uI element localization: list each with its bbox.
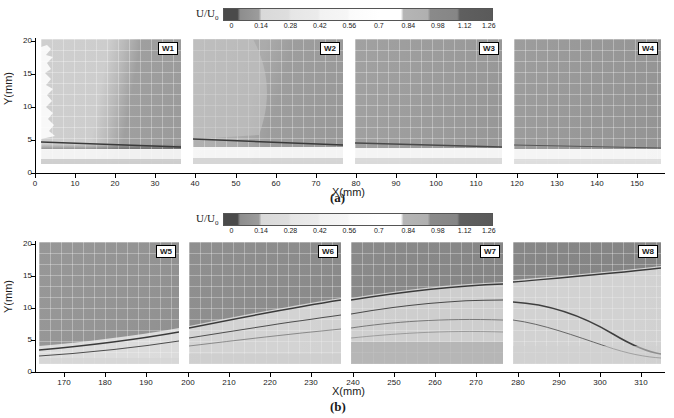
xtick: 210 [222,378,235,387]
xtick: 170 [57,378,70,387]
xtick: 270 [469,378,482,387]
w8-label: W8 [638,245,658,258]
xtick: 150 [630,179,643,188]
w8-grid [513,242,661,364]
window-w6: W6 [189,242,341,364]
xtickmark [236,174,237,178]
ytickmark [31,372,36,373]
cbar-tick: 0.98 [431,227,445,234]
w3-grid [355,39,502,164]
cbar-tick: 1.12 [458,22,472,29]
xtick: 30 [151,179,160,188]
window-w3: W3 [355,39,502,164]
cbar-tick: 1.12 [458,227,472,234]
xtick: 180 [98,378,111,387]
w4-label: W4 [638,42,658,55]
panel-b-xlabel: X(mm) [332,385,365,397]
xtick: 60 [272,179,281,188]
xtickmark [188,373,189,377]
w5-grid [39,242,179,364]
cbar-tick: 0.42 [313,227,327,234]
xtick: 130 [550,179,563,188]
xtick: 120 [510,179,523,188]
xtickmark [557,174,558,178]
colorbar-a: U/U0 0 0.14 0.28 0.42 0.56 0.7 0.84 0.98… [196,8,493,32]
xtick: 300 [593,378,606,387]
xtickmark [597,174,598,178]
panel-b-caption: (b) [330,399,346,415]
w4-grid [514,39,661,164]
panel-b-yaxis [35,241,36,372]
xtick: 200 [181,378,194,387]
ytickmark [31,308,36,309]
ytick: 15 [14,271,32,280]
w2-label: W2 [320,42,340,55]
xtickmark [518,373,519,377]
cbar-tick: 0.7 [374,22,384,29]
xtick: 100 [429,179,442,188]
window-w5: W5 [39,242,179,364]
xtickmark [316,174,317,178]
xtick: 70 [312,179,321,188]
xtickmark [229,373,230,377]
ytick: 5 [14,135,32,144]
xtick: 260 [428,378,441,387]
w1-grid [41,39,181,164]
xtick: 50 [232,179,241,188]
xtickmark [64,373,65,377]
xtickmark [600,373,601,377]
ytick: 10 [14,303,32,312]
cbar-tick: 0 [230,227,234,234]
cbar-tick: 0.98 [431,22,445,29]
ytick: 15 [14,69,32,78]
ytickmark [31,244,36,245]
cbar-tick: 0.56 [343,22,357,29]
colorbar-title-b: U/U0 [196,213,218,229]
ytickmark [31,74,36,75]
cbar-tick: 0.56 [343,227,357,234]
xtickmark [559,373,560,377]
panel-b-plot: W5 W6 [35,241,665,372]
xtickmark [270,373,271,377]
xtick: 10 [71,179,80,188]
ytickmark [31,140,36,141]
panel-b-ylabel: Y(mm) [2,280,14,313]
ytickmark [31,340,36,341]
xtick: 190 [139,378,152,387]
w6-label: W6 [318,245,338,258]
ytickmark [31,276,36,277]
xtickmark [195,174,196,178]
xtickmark [356,174,357,178]
cbar-tick: 0.84 [402,22,416,29]
w6-grid [189,242,341,364]
ytick: 0 [14,367,32,376]
cbar-tick: 0.7 [374,227,384,234]
cbar-tick: 0.28 [284,227,298,234]
ytick: 20 [14,36,32,45]
xtickmark [155,174,156,178]
w7-label: W7 [480,245,500,258]
panel-a-caption: (a) [330,190,345,206]
xtickmark [476,174,477,178]
colorbar-title-a: U/U0 [196,8,218,24]
xtick: 20 [111,179,120,188]
xtickmark [435,373,436,377]
panel-a: U/U0 0 0.14 0.28 0.42 0.56 0.7 0.84 0.98… [0,0,674,205]
cbar-tick: 1.26 [482,22,496,29]
colorbar-gradient-a [223,8,493,21]
colorbar-gradient-b [223,213,493,226]
w3-label: W3 [479,42,499,55]
xtickmark [105,373,106,377]
window-w7: W7 [351,242,503,364]
xtick: 40 [191,179,200,188]
window-w4: W4 [514,39,661,164]
cbar-tick: 0.28 [284,22,298,29]
xtick: 110 [470,179,483,188]
panel-a-plot: W1 W2 W3 [35,38,665,173]
colorbar-ticks-a: 0 0.14 0.28 0.42 0.56 0.7 0.84 0.98 1.12… [223,21,491,32]
xtick: 90 [392,179,401,188]
xtick: 250 [387,378,400,387]
ytickmark [31,41,36,42]
xtickmark [115,174,116,178]
cbar-tick: 0.42 [313,22,327,29]
